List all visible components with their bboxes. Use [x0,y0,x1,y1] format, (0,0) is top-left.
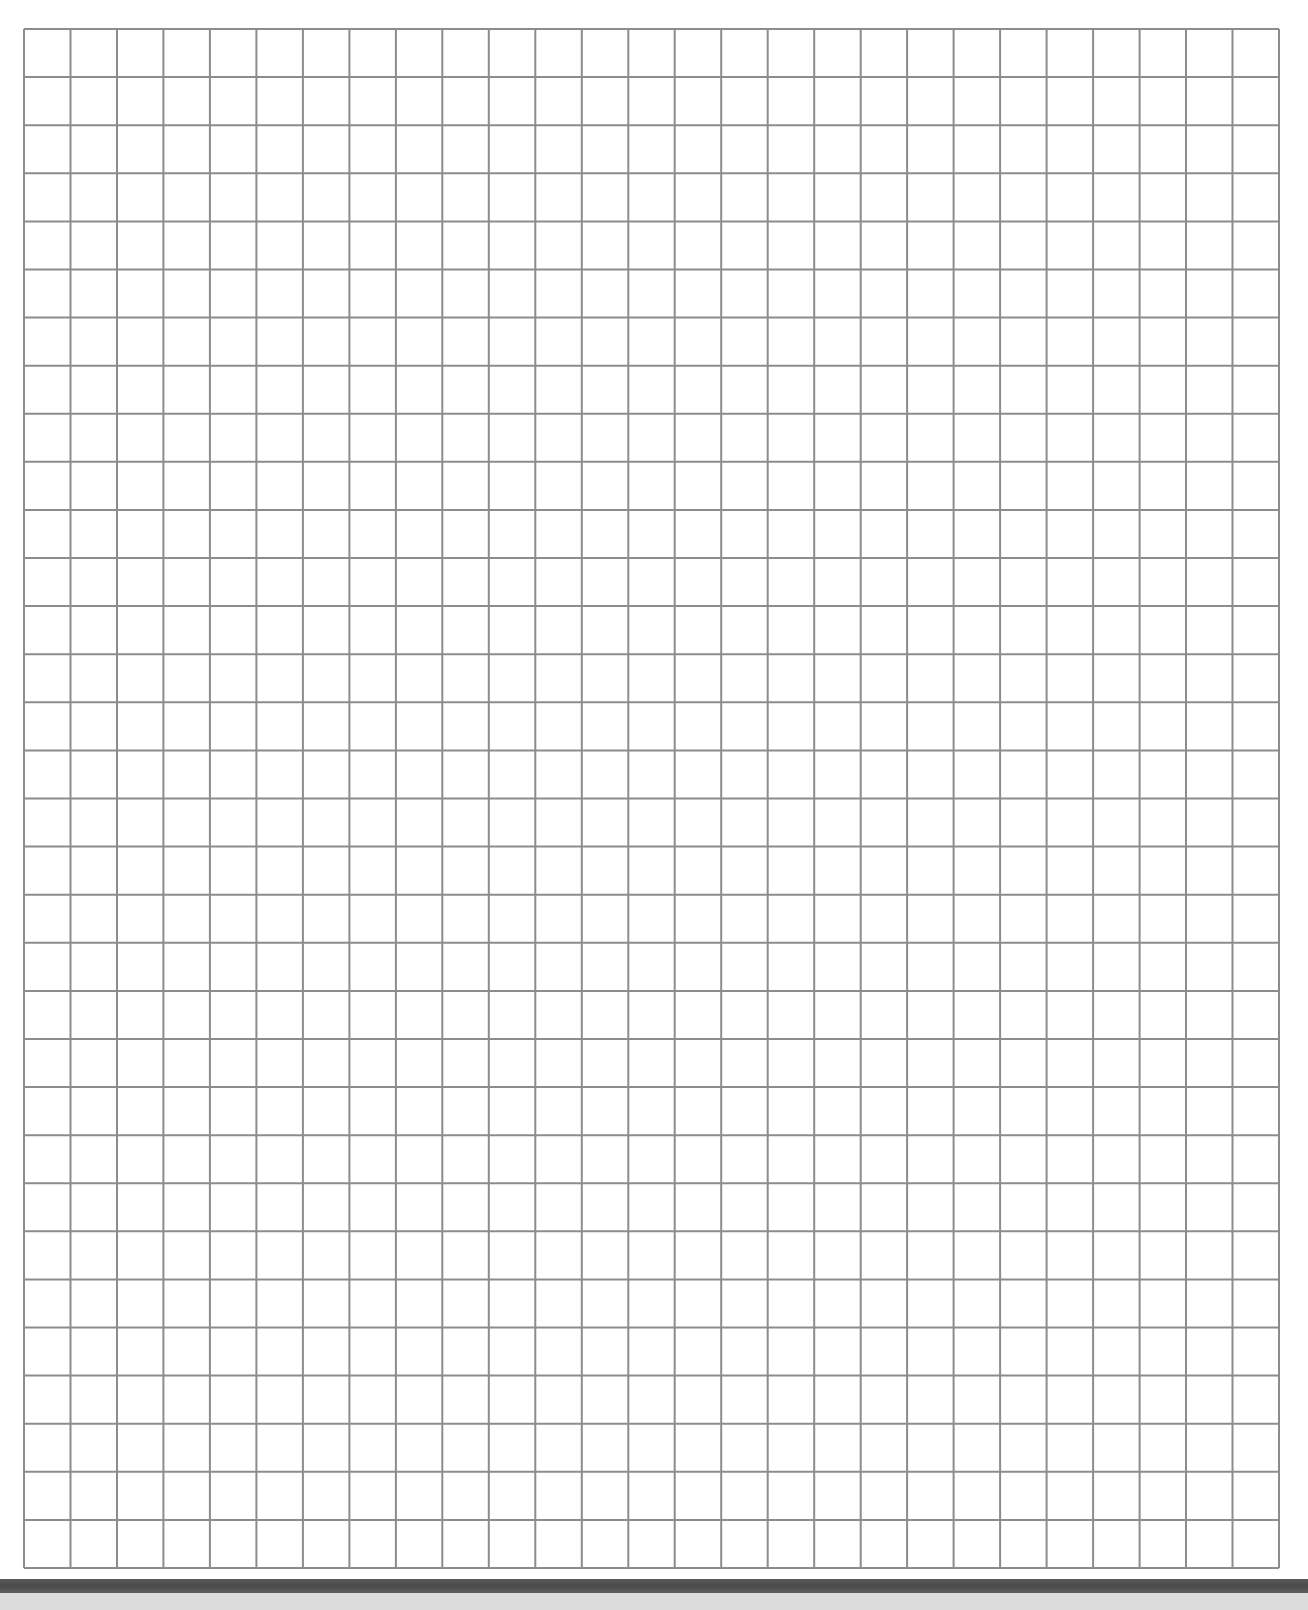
scanner-bed-band [0,1593,1308,1610]
graph-paper-sheet [0,0,1308,1580]
scanner-edge-band [0,1579,1308,1593]
grid [0,0,1308,1580]
